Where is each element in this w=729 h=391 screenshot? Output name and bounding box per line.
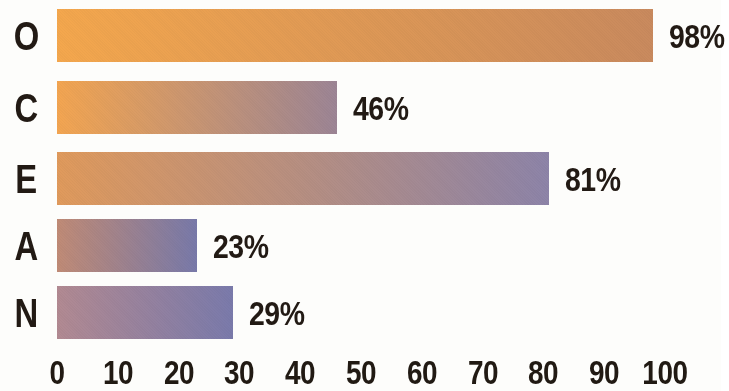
bar-o	[57, 9, 653, 62]
x-tick-0: 0	[48, 355, 66, 389]
category-label-a: A	[4, 226, 48, 266]
bar-row-o: O 98%	[0, 0, 721, 72]
bar-n	[57, 286, 233, 339]
x-tick-label: 100	[642, 355, 687, 389]
bar-c	[57, 81, 337, 134]
value-label-a: 23%	[213, 229, 278, 262]
bar-track-a: 23%	[57, 219, 721, 272]
x-tick-40: 40	[282, 355, 319, 389]
x-tick-10: 10	[99, 355, 136, 389]
x-tick-label: 0	[49, 355, 64, 389]
x-tick-label: 10	[103, 355, 133, 389]
x-tick-50: 50	[343, 355, 380, 389]
bar-track-n: 29%	[57, 286, 721, 339]
x-tick-label: 20	[163, 355, 193, 389]
x-tick-label: 50	[346, 355, 376, 389]
category-label-o: O	[4, 16, 48, 56]
x-axis: 0102030405060708090100	[0, 345, 721, 391]
x-tick-label: 70	[467, 355, 497, 389]
x-tick-label: 30	[224, 355, 254, 389]
category-label-c: C	[4, 88, 48, 128]
x-tick-100: 100	[637, 355, 692, 389]
x-tick-label: 40	[285, 355, 315, 389]
bar-track-o: 98%	[57, 9, 721, 62]
bar-track-e: 81%	[57, 152, 721, 205]
value-label-e: 81%	[565, 162, 630, 195]
category-label-n: N	[4, 293, 48, 333]
x-tick-30: 30	[221, 355, 258, 389]
value-label-n: 29%	[249, 296, 314, 329]
bar-row-n: N 29%	[0, 277, 721, 349]
x-tick-80: 80	[525, 355, 562, 389]
bar-row-c: C 46%	[0, 72, 721, 144]
x-tick-60: 60	[403, 355, 440, 389]
plot-area: O 98% C 46% E 81% A	[0, 0, 721, 345]
bar-e	[57, 152, 549, 205]
x-tick-label: 90	[589, 355, 619, 389]
bar-track-c: 46%	[57, 81, 721, 134]
bar-row-a: A 23%	[0, 210, 721, 282]
value-label-o: 98%	[669, 19, 729, 52]
bar-row-e: E 81%	[0, 143, 721, 215]
x-tick-label: 60	[407, 355, 437, 389]
bar-a	[57, 219, 197, 272]
x-tick-label: 80	[528, 355, 558, 389]
value-label-c: 46%	[353, 91, 418, 124]
category-label-e: E	[4, 159, 48, 199]
x-tick-20: 20	[160, 355, 197, 389]
x-tick-90: 90	[586, 355, 623, 389]
x-tick-70: 70	[464, 355, 501, 389]
